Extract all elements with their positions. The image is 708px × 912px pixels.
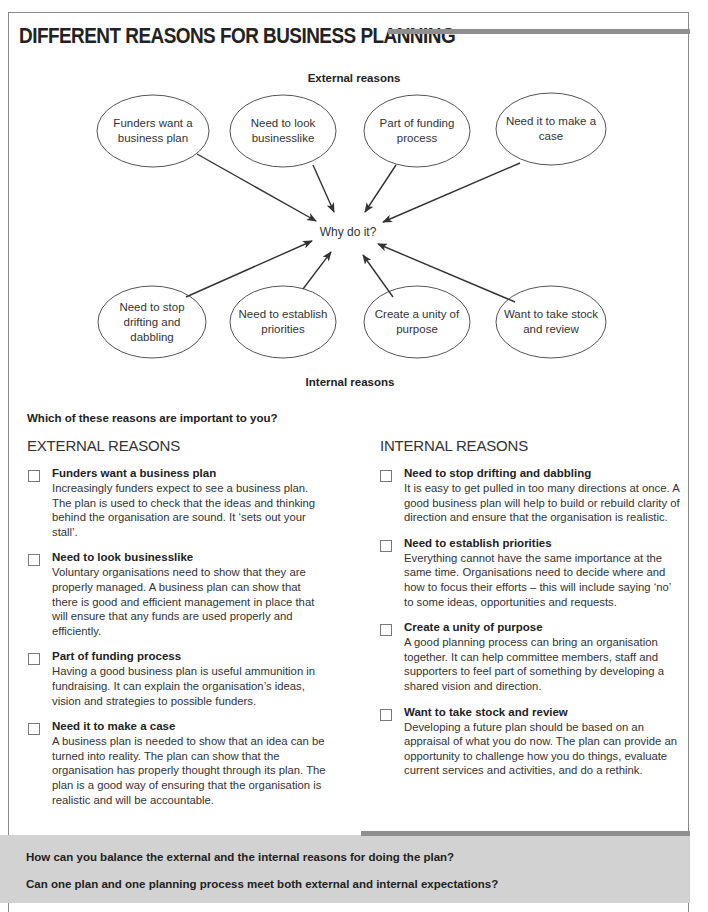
reflection-question: Can one plan and one planning process me… bbox=[26, 878, 498, 890]
item-body: A good planning process can bring an org… bbox=[404, 635, 680, 693]
reasons-diagram bbox=[0, 0, 708, 400]
checkbox[interactable] bbox=[28, 723, 40, 735]
item-body: It is easy to get pulled in too many dir… bbox=[404, 481, 680, 525]
checklist-item: Create a unity of purpose A good plannin… bbox=[380, 620, 680, 693]
checkbox[interactable] bbox=[28, 653, 40, 665]
checklist-prompt: Which of these reasons are important to … bbox=[27, 412, 277, 424]
checkbox[interactable] bbox=[28, 470, 40, 482]
item-title: Want to take stock and review bbox=[404, 705, 680, 720]
checklist-item: Need it to make a case A business plan i… bbox=[28, 719, 328, 807]
why-do-it-label: Why do it? bbox=[320, 225, 377, 239]
item-body: Increasingly funders expect to see a bus… bbox=[52, 481, 328, 539]
item-title: Need to stop drifting and dabbling bbox=[404, 466, 680, 481]
bubble-take-stock: Want to take stock and review bbox=[501, 307, 601, 337]
item-body: Everything cannot have the same importan… bbox=[404, 551, 680, 609]
checklist-item: Need to stop drifting and dabbling It is… bbox=[380, 466, 680, 525]
item-body: Voluntary organisations need to show tha… bbox=[52, 565, 328, 638]
arrow bbox=[363, 255, 393, 297]
item-body: A business plan is needed to show that a… bbox=[52, 734, 328, 807]
band-accent-bar bbox=[361, 831, 690, 836]
bubble-unity-of-purpose: Create a unity of purpose bbox=[369, 307, 465, 337]
checklist-item: Funders want a business plan Increasingl… bbox=[28, 466, 328, 539]
bubble-look-businesslike: Need to look businesslike bbox=[238, 116, 328, 146]
internal-reasons-label: Internal reasons bbox=[306, 376, 395, 388]
item-title: Funders want a business plan bbox=[52, 466, 328, 481]
checklist-item: Want to take stock and review Developing… bbox=[380, 705, 680, 778]
arrow bbox=[303, 252, 331, 289]
item-title: Need it to make a case bbox=[52, 719, 328, 734]
checkbox[interactable] bbox=[380, 470, 392, 482]
item-title: Create a unity of purpose bbox=[404, 620, 680, 635]
checklist-item: Need to establish priorities Everything … bbox=[380, 536, 680, 609]
checklist-item: Part of funding process Having a good bu… bbox=[28, 649, 328, 708]
bubble-funders-want-plan: Funders want a business plan bbox=[103, 116, 203, 146]
external-reasons-heading: EXTERNAL REASONS bbox=[27, 437, 180, 454]
arrow bbox=[313, 165, 334, 212]
checkbox[interactable] bbox=[380, 624, 392, 636]
external-reasons-list: Funders want a business plan Increasingl… bbox=[28, 466, 328, 818]
item-body: Having a good business plan is useful am… bbox=[52, 664, 328, 708]
item-title: Part of funding process bbox=[52, 649, 328, 664]
external-reasons-label: External reasons bbox=[308, 72, 401, 84]
bubble-funding-process: Part of funding process bbox=[372, 116, 462, 146]
reflection-band bbox=[0, 835, 690, 903]
item-title: Need to look businesslike bbox=[52, 550, 328, 565]
arrow bbox=[365, 165, 396, 212]
internal-reasons-list: Need to stop drifting and dabbling It is… bbox=[380, 466, 680, 789]
bubble-establish-priorities: Need to establish priorities bbox=[233, 307, 333, 337]
reflection-question: How can you balance the external and the… bbox=[26, 851, 454, 863]
checkbox[interactable] bbox=[380, 709, 392, 721]
checklist-item: Need to look businesslike Voluntary orga… bbox=[28, 550, 328, 638]
item-title: Need to establish priorities bbox=[404, 536, 680, 551]
bubble-make-a-case: Need it to make a case bbox=[503, 114, 599, 144]
bubble-stop-drifting: Need to stop drifting and dabbling bbox=[112, 300, 192, 345]
item-body: Developing a future plan should be based… bbox=[404, 720, 680, 778]
checkbox[interactable] bbox=[28, 554, 40, 566]
arrow bbox=[383, 163, 520, 222]
internal-reasons-heading: INTERNAL REASONS bbox=[380, 437, 528, 454]
checkbox[interactable] bbox=[380, 540, 392, 552]
